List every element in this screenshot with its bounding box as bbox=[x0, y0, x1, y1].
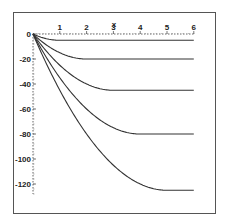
x-axis-label: x bbox=[112, 20, 117, 29]
y-tick-label: -100 bbox=[15, 155, 32, 164]
y-tick-label: -80 bbox=[19, 130, 31, 139]
x-tick-label: 2 bbox=[84, 23, 89, 32]
y-tick-label: -20 bbox=[19, 55, 31, 64]
chart: 123456 0-20-40-60-80-100-120 x bbox=[0, 0, 226, 223]
y-tick-label: 0 bbox=[27, 30, 32, 39]
x-tick-label: 5 bbox=[165, 23, 170, 32]
x-tick-label: 6 bbox=[192, 23, 197, 32]
y-tick-label: -60 bbox=[19, 105, 31, 114]
y-tick-label: -120 bbox=[15, 180, 32, 189]
x-tick-label: 1 bbox=[58, 23, 63, 32]
y-tick-label: -40 bbox=[19, 80, 31, 89]
x-tick-label: 4 bbox=[138, 23, 143, 32]
